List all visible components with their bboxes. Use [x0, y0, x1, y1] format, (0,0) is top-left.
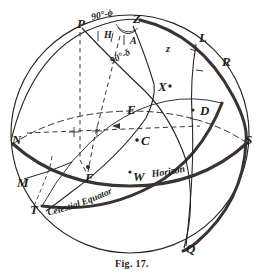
- hour-circle-PXQ: [82, 28, 191, 248]
- point-label-N: N: [12, 133, 21, 146]
- tick-cross-right: [92, 126, 102, 136]
- node-dot-W: [128, 170, 131, 173]
- point-label-Q: Q: [186, 242, 195, 255]
- center-dot-C: [135, 138, 139, 142]
- secondary-circle-LDQ: [186, 44, 196, 246]
- point-label-Z: Z: [133, 12, 141, 25]
- point-label-P: P: [77, 17, 85, 30]
- celestial-equator-label: Celestial Equator: [46, 186, 113, 218]
- point-label-R: R: [222, 55, 231, 68]
- point-label-X: X: [158, 80, 167, 93]
- sphere-outline: [11, 15, 249, 253]
- colatitude-angle-label: 90°-ϕ: [90, 7, 114, 22]
- point-label-E: E: [127, 103, 136, 116]
- point-label-M: M: [17, 176, 29, 189]
- point-label-S: S: [245, 133, 252, 146]
- point-label-W: W: [133, 170, 145, 183]
- figure-17-celestial-sphere: Celestial Equator Horizon 90°-ϕ 90°-δ P …: [0, 0, 264, 279]
- figure-caption: Fig. 17.: [0, 258, 264, 269]
- point-label-T: T: [30, 203, 38, 216]
- right-angle-tick-R: [196, 70, 203, 71]
- meridian-arc-PZ: [11, 19, 140, 141]
- node-dot-D: [191, 108, 194, 111]
- angle-label-A: A: [130, 36, 137, 46]
- horizon-front-arc: [13, 143, 247, 186]
- polar-distance-angle-label: 90°-δ: [108, 47, 132, 66]
- angle-label-H: H: [104, 30, 112, 40]
- tick-cross-left: [69, 127, 79, 137]
- angle-label-z: z: [166, 44, 170, 54]
- meridian-arc-ZS: [140, 20, 246, 141]
- point-label-D: D: [200, 104, 209, 117]
- node-dot-F: [86, 165, 90, 169]
- point-label-F: F: [85, 171, 94, 184]
- point-label-C: C: [141, 134, 150, 147]
- horizon-label: Horizon: [150, 163, 186, 179]
- point-label-L: L: [199, 31, 207, 44]
- node-dot-X: [168, 84, 171, 87]
- right-angle-tick-D: [190, 118, 196, 120]
